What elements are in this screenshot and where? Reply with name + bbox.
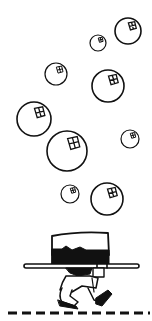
front-shoe-icon	[96, 290, 112, 306]
bubble[interactable]	[92, 70, 124, 102]
bubbles-group	[17, 18, 141, 215]
hat-brim-icon	[24, 264, 139, 268]
bubble[interactable]	[47, 131, 87, 171]
player-character[interactable]	[24, 232, 139, 309]
bubble[interactable]	[121, 130, 139, 148]
bubble[interactable]	[61, 185, 79, 203]
face-shadow-icon	[66, 268, 92, 276]
bubble[interactable]	[90, 35, 106, 51]
bubble[interactable]	[91, 183, 123, 215]
bubble-reflection-icon	[98, 37, 103, 42]
bubble[interactable]	[45, 63, 67, 85]
bubble-reflection-icon	[70, 188, 75, 194]
bubble[interactable]	[115, 18, 141, 44]
bubble[interactable]	[17, 102, 51, 136]
handbag-icon	[93, 268, 104, 277]
bubble-reflection-icon	[130, 133, 135, 139]
game-scene	[0, 0, 152, 321]
